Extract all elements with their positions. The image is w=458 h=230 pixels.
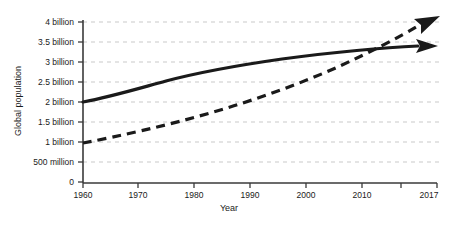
- dashed-series-arrowhead: [414, 16, 440, 34]
- y-axis-title: Global population: [13, 41, 23, 161]
- y-tick-label-1b: 1 billion: [0, 138, 74, 147]
- solid-series-line: [83, 46, 418, 102]
- x-axis-title: Year: [0, 203, 458, 213]
- y-tick-label-1.5b: 1.5 billion: [0, 118, 74, 127]
- y-tick-label-3b: 3 billion: [0, 58, 74, 67]
- y-tick-label-500m: 500 million: [0, 158, 74, 167]
- y-tick-label-4b: 4 billion: [0, 18, 74, 27]
- y-tick-label-0: 0: [0, 178, 74, 187]
- y-tick-label-3.5b: 3.5 billion: [0, 38, 74, 47]
- x-tick-label-2000: 2000: [286, 191, 326, 200]
- x-tick-label-1990: 1990: [230, 191, 270, 200]
- x-tick-label-1960: 1960: [63, 191, 103, 200]
- y-tick-label-2b: 2 billion: [0, 98, 74, 107]
- y-tick-label-2.5b: 2.5 billion: [0, 78, 74, 87]
- x-tick-label-1970: 1970: [118, 191, 158, 200]
- population-line-chart: 4 billion 3.5 billion 3 billion 2.5 bill…: [0, 0, 458, 230]
- x-tick-label-2010: 2010: [342, 191, 382, 200]
- dashed-series-line: [83, 26, 418, 143]
- x-tick-label-1980: 1980: [174, 191, 214, 200]
- x-tick-label-2017: 2017: [409, 191, 449, 200]
